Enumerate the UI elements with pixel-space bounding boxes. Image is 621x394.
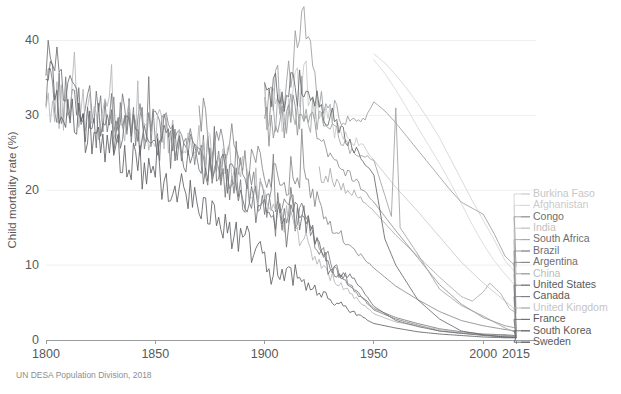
child-mortality-line-chart: 180018501900195020002015 010203040 Burki…	[0, 0, 621, 394]
legend-label-congo[interactable]: Congo	[533, 210, 564, 222]
legend-label-burkina-faso[interactable]: Burkina Faso	[533, 187, 595, 199]
y-tick-label-0: 0	[32, 333, 39, 347]
legend-label-sweden[interactable]: Sweden	[533, 335, 571, 347]
legend-label-brazil[interactable]: Brazil	[533, 244, 559, 256]
y-tick-label-30: 30	[25, 108, 39, 122]
y-tick-label-20: 20	[25, 183, 39, 197]
legend-label-canada[interactable]: Canada	[533, 289, 570, 301]
legend-label-south-africa[interactable]: South Africa	[533, 232, 590, 244]
legend-label-china[interactable]: China	[533, 267, 561, 279]
legend-label-afghanistan[interactable]: Afghanistan	[533, 198, 589, 210]
legend-label-india[interactable]: India	[533, 221, 556, 233]
y-axis-title: Child mortality rate (%)	[6, 131, 18, 248]
x-tick-label-2015: 2015	[502, 347, 530, 361]
x-tick-label-1850: 1850	[141, 347, 169, 361]
chart-figure: 180018501900195020002015 010203040 Burki…	[0, 0, 621, 394]
x-tick-label-2000: 2000	[469, 347, 497, 361]
source-caption: UN DESA Population Division, 2018	[16, 370, 152, 380]
x-tick-label-1900: 1900	[251, 347, 279, 361]
y-tick-label-10: 10	[25, 258, 39, 272]
x-tick-label-1800: 1800	[32, 347, 60, 361]
y-tick-label-40: 40	[25, 33, 39, 47]
legend-label-france[interactable]: France	[533, 312, 566, 324]
x-tick-label-1950: 1950	[360, 347, 388, 361]
legend-label-united-kingdom[interactable]: United Kingdom	[533, 301, 608, 313]
legend-label-united-states[interactable]: United States	[533, 278, 596, 290]
legend-label-argentina[interactable]: Argentina	[533, 255, 578, 267]
legend-label-south-korea[interactable]: South Korea	[533, 324, 592, 336]
